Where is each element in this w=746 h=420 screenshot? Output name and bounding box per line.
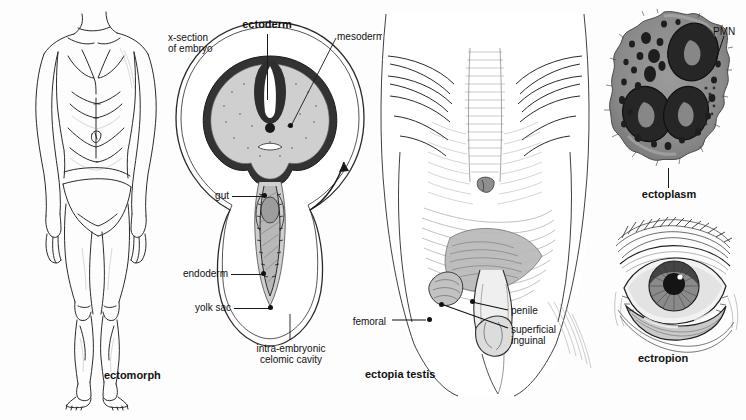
ectopia-testis-caption: ectopia testis bbox=[365, 368, 435, 380]
ectomorph-caption: ectomorph bbox=[104, 369, 161, 381]
yolk-sac-point bbox=[268, 305, 273, 310]
ectropion-caption: ectropion bbox=[638, 352, 688, 364]
pmn-leader bbox=[704, 34, 744, 68]
celomic-cavity-label-line2: celomic cavity bbox=[260, 354, 322, 365]
penile-label: penile bbox=[511, 305, 538, 316]
gut-point bbox=[262, 193, 267, 198]
ectoderm-leader bbox=[267, 34, 268, 100]
superficial-inguinal-label-line2: inguinal bbox=[511, 335, 545, 346]
mesoderm-leader bbox=[280, 30, 380, 140]
mesoderm-point bbox=[288, 123, 293, 128]
yolk-sac-label: yolk sac bbox=[195, 302, 231, 313]
gut-leader bbox=[232, 196, 264, 197]
yolk-sac-leader bbox=[234, 308, 270, 309]
endoderm-label: endoderm bbox=[183, 268, 228, 279]
gut-label: gut bbox=[215, 190, 229, 201]
ectoplasm-leader bbox=[668, 168, 669, 188]
celomic-cavity-label-line1: intra-embryonic bbox=[257, 343, 326, 354]
endoderm-leader bbox=[231, 274, 263, 275]
ectoderm-label: ectoderm bbox=[242, 18, 292, 30]
endoderm-point bbox=[261, 271, 266, 276]
superficial-inguinal-label-line1: superficial bbox=[511, 324, 556, 335]
ectopia-leaders bbox=[388, 292, 518, 340]
x-section-label-line2: of embryo bbox=[168, 43, 212, 54]
ectoplasm-label: ectoplasm bbox=[642, 188, 696, 200]
illustration-plate: ectomorph bbox=[0, 0, 746, 420]
ectropion-figure bbox=[608, 214, 740, 354]
pmn-label: PMN bbox=[713, 26, 735, 37]
femoral-label: femoral bbox=[353, 316, 386, 327]
x-section-label-line1: x-section bbox=[168, 32, 208, 43]
